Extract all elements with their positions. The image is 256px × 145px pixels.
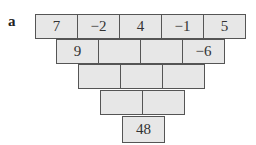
pyramid-cell: −6 bbox=[182, 39, 225, 64]
pyramid-cell: 5 bbox=[203, 14, 246, 39]
pyramid-row-4 bbox=[100, 90, 185, 115]
pyramid-cell: −1 bbox=[161, 14, 204, 39]
pyramid-row-5: 48 bbox=[122, 116, 165, 141]
pyramid-cell-blank bbox=[162, 64, 205, 89]
pyramid-row-1: 7 −2 4 −1 5 bbox=[35, 14, 246, 39]
pyramid-row-3 bbox=[78, 64, 205, 89]
pyramid-cell-blank bbox=[142, 90, 185, 115]
pyramid-cell: 9 bbox=[56, 39, 99, 64]
pyramid-cell-blank bbox=[98, 39, 141, 64]
figure-label: a bbox=[8, 13, 16, 30]
pyramid-cell-blank bbox=[140, 39, 183, 64]
pyramid-row-2: 9 −6 bbox=[56, 39, 225, 64]
pyramid-cell: −2 bbox=[77, 14, 120, 39]
pyramid-cell: 7 bbox=[35, 14, 78, 39]
pyramid-cell-blank bbox=[78, 64, 121, 89]
pyramid-cell: 4 bbox=[119, 14, 162, 39]
pyramid-cell-blank bbox=[100, 90, 143, 115]
pyramid-cell-blank bbox=[120, 64, 163, 89]
pyramid-cell-apex: 48 bbox=[122, 116, 165, 143]
